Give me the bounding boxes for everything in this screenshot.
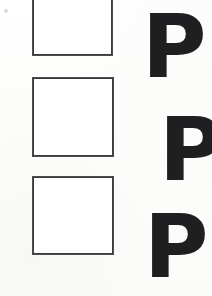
letter-glyph-1: P: [142, 3, 207, 91]
letter-glyph-3: P: [144, 203, 209, 291]
scanned-page: P P P: [0, 0, 212, 296]
answer-box-3[interactable]: [32, 176, 114, 255]
answer-box-1[interactable]: [32, 0, 113, 56]
scan-speck-artifact: [4, 9, 8, 13]
answer-box-2[interactable]: [32, 77, 114, 157]
letter-glyph-2: P: [159, 106, 212, 194]
